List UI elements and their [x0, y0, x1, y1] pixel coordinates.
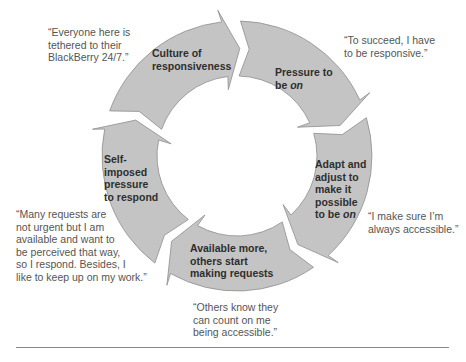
- quote-others-know: “Others know they can count on me being …: [193, 301, 278, 339]
- bottom-divider: [16, 347, 449, 348]
- step-label-adapt-and-adjust: Adapt and adjust to make it possible to …: [315, 158, 366, 221]
- step-label-pressure-to-be-on: Pressure to be on: [275, 66, 333, 91]
- quote-many-requests: “Many requests are not urgent but I am a…: [16, 208, 147, 283]
- step-label-available-more: Available more, others start making requ…: [190, 242, 273, 280]
- quote-everyone-tethered: “Everyone here is tethered to their Blac…: [48, 26, 130, 64]
- quote-to-succeed: “To succeed, I have to be responsive.”: [344, 34, 435, 59]
- step-label-culture-of-responsiveness: Culture of responsiveness: [152, 47, 231, 72]
- step-label-self-imposed-pressure: Self- imposed pressure to respond: [104, 153, 158, 203]
- quote-always-accessible: “I make sure I’m always accessible.”: [368, 210, 458, 235]
